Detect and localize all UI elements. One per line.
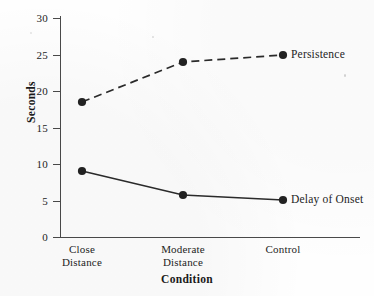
x-axis-title: Condition — [0, 273, 374, 285]
x-tick-label-control: Control — [223, 243, 343, 256]
data-point-persistence-moderate-distance — [179, 58, 187, 66]
data-point-delay-of-onset-moderate-distance — [179, 191, 187, 199]
series-label-delay-of-onset: Delay of Onset — [291, 193, 363, 205]
x-tick-label-moderate-distance-line2: Distance — [123, 256, 243, 269]
series-label-persistence: Persistence — [291, 48, 345, 60]
scan-speck — [152, 36, 154, 38]
data-point-delay-of-onset-control — [279, 196, 287, 204]
chart-figure: 30 25 20 15 10 5 0 Seconds Persistence D… — [0, 0, 374, 296]
data-point-persistence-close-distance — [78, 98, 86, 106]
data-point-persistence-control — [279, 51, 287, 59]
scan-speck — [30, 32, 32, 34]
scan-speck — [344, 74, 346, 77]
x-tick-label-control-line1: Control — [223, 243, 343, 256]
data-point-delay-of-onset-close-distance — [78, 167, 86, 175]
